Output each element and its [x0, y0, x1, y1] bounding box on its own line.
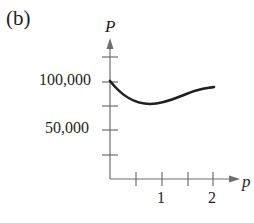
series-line	[110, 81, 214, 104]
y-axis-arrow-icon	[107, 38, 114, 49]
plot-area	[0, 0, 254, 223]
x-axis-arrow-icon	[229, 176, 240, 183]
